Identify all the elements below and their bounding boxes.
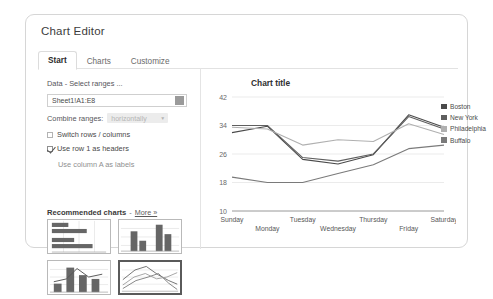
range-input[interactable]: Sheet1!A1:E8 — [47, 94, 187, 107]
line-chart-svg: 4234261810SundayMondayTuesdayWednesdayTh… — [206, 91, 456, 241]
checkbox-use-row-1-as-headers[interactable]: Use row 1 as headers — [47, 144, 129, 153]
checkbox-label: Use column A as labels — [58, 160, 134, 169]
range-input-value: Sheet1!A1:E8 — [48, 97, 174, 104]
svg-text:34: 34 — [219, 122, 227, 129]
chart-title: Chart title — [251, 78, 290, 88]
combine-ranges-row: Combine ranges: horizontally ▼ — [47, 113, 168, 123]
legend-label: Philadelphia — [450, 125, 486, 132]
svg-text:Thursday: Thursday — [359, 216, 388, 224]
line-chart-icon — [120, 262, 180, 293]
recommended-charts-thumbnails — [47, 219, 193, 299]
svg-text:42: 42 — [219, 94, 227, 101]
svg-text:Tuesday: Tuesday — [290, 216, 316, 224]
recommended-charts-title: Recommended charts — [47, 208, 126, 217]
combine-ranges-select[interactable]: horizontally ▼ — [107, 113, 168, 123]
legend-swatch — [441, 126, 447, 132]
chart-plot: 4234261810SundayMondayTuesdayWednesdayTh… — [206, 91, 456, 241]
combine-ranges-label: Combine ranges: — [47, 114, 103, 123]
legend-item-philadelphia[interactable]: Philadelphia — [441, 125, 486, 132]
checkbox-use-column-a-as-labels[interactable]: Use column A as labels — [58, 160, 134, 169]
combo-chart-thumbnail[interactable] — [47, 260, 111, 295]
recommended-charts-header: Recommended charts - More » — [47, 208, 157, 217]
svg-text:Friday: Friday — [399, 225, 418, 233]
svg-text:Monday: Monday — [255, 225, 280, 233]
svg-text:18: 18 — [219, 179, 227, 186]
checkbox-box — [47, 146, 53, 152]
checkbox-box — [47, 132, 53, 138]
checkbox-label: Switch rows / columns — [57, 130, 130, 139]
chart-preview-area: Chart title 4234261810SundayMondayTuesda… — [206, 71, 456, 246]
column-chart-icon — [119, 220, 181, 253]
checkbox-switch-rows-columns[interactable]: Switch rows / columns — [47, 130, 130, 139]
svg-text:Sunday: Sunday — [220, 216, 244, 224]
thumbnail-row — [47, 219, 193, 254]
combo-chart-icon — [48, 261, 110, 294]
grid-picker-icon[interactable] — [174, 95, 185, 106]
svg-text:Wednesday: Wednesday — [320, 225, 356, 233]
legend-item-boston[interactable]: Boston — [441, 103, 486, 110]
bar-chart-thumbnail[interactable] — [47, 219, 111, 254]
svg-text:10: 10 — [219, 208, 227, 215]
recommended-dash: - — [129, 208, 131, 217]
legend-label: Buffalo — [450, 137, 470, 144]
legend-swatch — [441, 104, 447, 110]
legend-swatch — [441, 137, 447, 143]
page-title: Chart Editor — [41, 25, 105, 37]
svg-text:26: 26 — [219, 151, 227, 158]
left-settings-panel: Data - Select ranges ... Sheet1!A1:E8 Co… — [38, 68, 201, 249]
recommended-more-link[interactable]: More » — [135, 208, 157, 217]
legend-label: New York — [450, 114, 478, 121]
chart-editor-dialog: Chart Editor Start Charts Customize Data… — [25, 14, 468, 248]
data-section-heading: Data - Select ranges ... — [47, 79, 123, 88]
legend-item-buffalo[interactable]: Buffalo — [441, 137, 486, 144]
legend-swatch — [441, 115, 447, 121]
chevron-down-icon: ▼ — [160, 115, 165, 121]
thumbnail-row — [47, 260, 193, 295]
checkbox-label: Use row 1 as headers — [57, 144, 129, 153]
svg-text:Saturday: Saturday — [430, 216, 456, 224]
column-chart-thumbnail[interactable] — [118, 219, 182, 254]
bar-chart-icon — [48, 220, 110, 253]
combine-ranges-value: horizontally — [111, 115, 146, 122]
chart-legend: Boston New York Philadelphia Buffalo — [441, 103, 486, 148]
legend-item-new-york[interactable]: New York — [441, 114, 486, 121]
legend-label: Boston — [450, 103, 471, 110]
line-chart-thumbnail[interactable] — [118, 260, 182, 295]
